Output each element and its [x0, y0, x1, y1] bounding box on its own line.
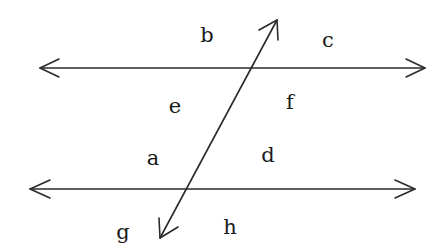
angle-label-h: h — [223, 217, 237, 238]
angle-label-b: b — [200, 25, 213, 46]
bottom-parallel-line — [30, 180, 415, 198]
angle-label-d: d — [261, 145, 274, 166]
angle-label-a: a — [147, 148, 160, 169]
transversal-line — [159, 20, 278, 238]
top-parallel-line — [40, 59, 425, 77]
parallel-lines-transversal-diagram: b c e f a d g h — [0, 0, 445, 252]
angle-label-f: f — [286, 92, 294, 113]
angle-label-e: e — [169, 96, 181, 117]
angle-label-c: c — [322, 30, 334, 51]
angle-label-g: g — [116, 222, 129, 243]
